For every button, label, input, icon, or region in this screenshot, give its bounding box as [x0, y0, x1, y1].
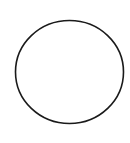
- circle-outline: [16, 21, 124, 124]
- circle-diagram: [0, 0, 130, 143]
- diagram-canvas: [0, 0, 130, 143]
